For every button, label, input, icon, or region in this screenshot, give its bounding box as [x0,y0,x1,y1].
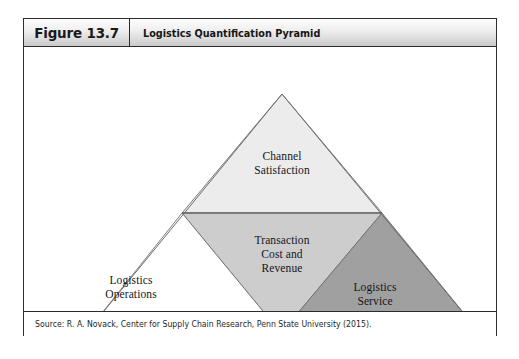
label-logistics-operations-line-2: Operations [72,287,190,301]
label-transaction-line-3: Revenue [220,261,344,275]
label-transaction-line-1: Transaction [220,233,344,247]
label-transaction-cost-and-revenue: Transaction Cost and Revenue [220,233,344,275]
label-logistics-service-line-2: Service [320,294,430,308]
figure-number-cell: Figure 13.7 [24,19,130,46]
figure-number-label: Figure 13.7 [34,25,119,41]
label-logistics-operations: Logistics Operations [72,273,190,301]
figure-title-cell: Logistics Quantification Pyramid [130,19,496,46]
figure-footer: Source: R. A. Novack, Center for Supply … [24,311,496,336]
figure-source-label: Source: R. A. Novack, Center for Supply … [35,319,371,329]
label-channel-line-1: Channel [220,149,344,163]
label-transaction-line-2: Cost and [220,247,344,261]
label-logistics-service: Logistics Service [320,280,430,308]
label-channel-satisfaction: Channel Satisfaction [220,149,344,177]
figure-body: Channel Satisfaction Transaction Cost an… [24,47,496,311]
label-logistics-service-line-1: Logistics [320,280,430,294]
figure-title-label: Logistics Quantification Pyramid [143,27,320,39]
label-channel-line-2: Satisfaction [220,163,344,177]
figure-header: Figure 13.7 Logistics Quantification Pyr… [24,19,496,47]
label-logistics-operations-line-1: Logistics [72,273,190,287]
figure-container: Figure 13.7 Logistics Quantification Pyr… [23,18,497,336]
